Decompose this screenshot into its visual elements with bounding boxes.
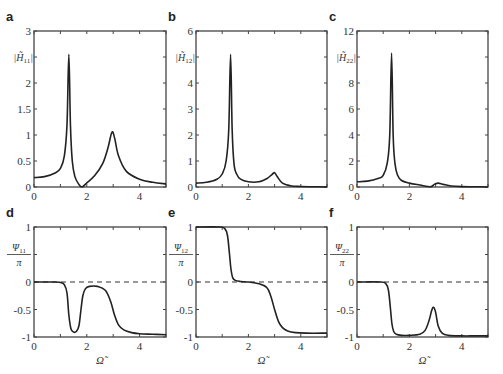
y-tick-label: 0: [188, 181, 194, 193]
y-tick-label: 0: [188, 276, 194, 288]
x-tick-label: 4: [459, 190, 465, 202]
y-tick-label: 0: [26, 181, 32, 193]
y-tick-label: 1: [188, 155, 194, 167]
data-curve: [34, 54, 166, 187]
x-tick-label: 2: [84, 340, 90, 352]
x-tick-label: 0: [31, 190, 37, 202]
panel-b: b024012346|H̃12|: [168, 9, 327, 202]
y-tick-label: 0.5: [17, 155, 31, 167]
x-axis-label: Ω̃: [96, 354, 109, 366]
y-tick-label: 1: [188, 221, 194, 233]
y-tick-label: 1: [26, 221, 32, 233]
x-axis-label: Ω̃: [258, 354, 271, 366]
panel-letter: d: [6, 205, 14, 220]
y-tick-label: -0.5: [337, 304, 355, 316]
panel-c: c0240246812|H̃22|: [329, 9, 488, 202]
panel-letter: a: [6, 9, 14, 24]
y-tick-label: 0: [349, 276, 355, 288]
x-tick-label: 0: [193, 190, 199, 202]
data-curve: [357, 282, 488, 336]
x-tick-label: 0: [193, 340, 199, 352]
y-axis-label: |H̃12|: [175, 51, 195, 65]
y-tick-label: -1: [22, 331, 31, 343]
y-tick-label: 4: [188, 77, 194, 89]
y-tick-label: 2: [26, 77, 32, 89]
x-tick-label: 0: [31, 340, 37, 352]
panel-letter: e: [168, 205, 175, 220]
x-tick-label: 2: [246, 190, 252, 202]
x-tick-label: 4: [137, 190, 143, 202]
panel-e: e024-1-0.501Ψ12πΩ̃: [168, 205, 327, 366]
x-tick-label: 4: [298, 340, 304, 352]
y-axis-label-numerator: Ψ11: [12, 242, 26, 255]
panel-letter: c: [329, 9, 336, 24]
data-curve: [196, 54, 327, 187]
y-axis-label-numerator: Ψ12: [174, 242, 189, 255]
y-tick-label: 1.5: [17, 103, 31, 115]
y-tick-label: 6: [349, 103, 355, 115]
y-tick-label: 0: [349, 181, 355, 193]
y-tick-label: 8: [349, 77, 355, 89]
y-axis-label-numerator: Ψ22: [335, 242, 350, 255]
x-tick-label: 0: [354, 190, 360, 202]
x-tick-label: 2: [84, 190, 90, 202]
axes-frame: [357, 31, 488, 187]
y-tick-label: 2: [188, 129, 194, 141]
panel-letter: b: [168, 9, 176, 24]
y-tick-label: 1: [349, 221, 355, 233]
x-tick-label: 0: [354, 340, 360, 352]
y-tick-label: 0: [26, 276, 32, 288]
y-axis-label: |H̃11|: [14, 51, 33, 65]
x-tick-label: 4: [137, 340, 143, 352]
figure: a02400.511.523|H̃11|b024012346|H̃12|c024…: [0, 0, 503, 374]
x-tick-label: 2: [407, 190, 413, 202]
y-axis-label-denominator: π: [178, 257, 184, 268]
x-tick-label: 4: [459, 340, 465, 352]
data-curve: [196, 227, 327, 333]
data-curve: [357, 53, 488, 187]
y-axis-label-denominator: π: [339, 257, 345, 268]
y-tick-label: 4: [349, 129, 355, 141]
x-tick-label: 2: [246, 340, 252, 352]
x-axis-label: Ω̃: [419, 354, 432, 366]
data-curve: [34, 282, 166, 335]
y-tick-label: 3: [26, 25, 32, 37]
y-tick-label: 6: [188, 25, 194, 37]
y-axis-label-denominator: π: [16, 257, 22, 268]
y-tick-label: -0.5: [176, 304, 194, 316]
axes-frame: [34, 31, 166, 187]
x-tick-label: 4: [298, 190, 304, 202]
y-axis-label: |H̃22|: [336, 51, 356, 65]
panel-letter: f: [329, 205, 334, 220]
y-tick-label: 3: [188, 103, 194, 115]
y-tick-label: -0.5: [14, 304, 32, 316]
y-tick-label: -1: [184, 331, 193, 343]
y-tick-label: 12: [343, 25, 354, 37]
axes-frame: [196, 31, 327, 187]
x-tick-label: 2: [407, 340, 413, 352]
y-tick-label: 1: [26, 129, 32, 141]
panel-f: f024-1-0.501Ψ22πΩ̃: [329, 205, 488, 366]
y-tick-label: -1: [345, 331, 354, 343]
y-tick-label: 2: [349, 155, 355, 167]
panel-a: a02400.511.523|H̃11|: [6, 9, 166, 202]
panel-d: d024-1-0.501Ψ11πΩ̃: [6, 205, 166, 366]
